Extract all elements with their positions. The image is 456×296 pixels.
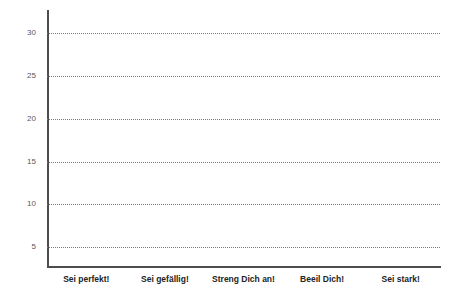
x-tick-label-sei-gefaellig: Sei gefällig! bbox=[126, 270, 205, 288]
x-tick-label-sei-perfekt: Sei perfekt! bbox=[47, 270, 126, 288]
x-tick-label-beeil-dich: Beeil Dich! bbox=[283, 270, 362, 288]
y-tick-label-15: 15 bbox=[6, 157, 36, 167]
x-tick-label-streng-dich-an: Streng Dich an! bbox=[204, 270, 283, 288]
series-layer bbox=[47, 10, 440, 267]
y-tick-label-10: 10 bbox=[6, 199, 36, 209]
y-tick-label-25: 25 bbox=[6, 71, 36, 81]
y-tick-label-20: 20 bbox=[6, 114, 36, 124]
chart-container: 30 25 20 15 10 5 Sei perfekt! Sei gefäll… bbox=[0, 0, 456, 296]
x-tick-label-sei-stark: Sei stark! bbox=[361, 270, 440, 288]
y-tick-label-30: 30 bbox=[6, 28, 36, 38]
y-tick-label-5: 5 bbox=[6, 242, 36, 252]
x-axis-labels: Sei perfekt! Sei gefällig! Streng Dich a… bbox=[47, 270, 440, 288]
plot-area bbox=[47, 10, 440, 267]
